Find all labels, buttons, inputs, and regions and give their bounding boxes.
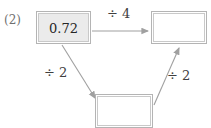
- value-box-topright[interactable]: [151, 11, 207, 44]
- operation-label-divide-4: ÷ 4: [107, 6, 130, 21]
- problem-number: (2): [4, 13, 21, 27]
- operation-label-divide-2-right: ÷ 2: [167, 68, 190, 83]
- value-box-bottom[interactable]: [95, 94, 153, 128]
- value-box-start[interactable]: 0.72: [36, 11, 91, 44]
- worksheet-problem-canvas: (2) 0.72 ÷ 4 ÷ 2 ÷ 2: [0, 0, 211, 128]
- value-box-start-label: 0.72: [37, 20, 90, 35]
- operation-label-divide-2-left: ÷ 2: [44, 65, 67, 80]
